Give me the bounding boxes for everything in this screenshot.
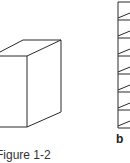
- ladder-drawing: [118, 2, 130, 128]
- figure-canvas: [0, 0, 130, 163]
- ladder-diagonal: [118, 85, 130, 90]
- figure-caption: Figure 1-2: [0, 148, 51, 162]
- panel-label-b: b: [116, 132, 123, 146]
- ladder-diagonal: [118, 31, 130, 36]
- cube-top-face: [0, 40, 61, 56]
- cube-front-face: [0, 56, 27, 127]
- ladder-diagonal: [118, 67, 130, 72]
- ladder-diagonal: [118, 121, 130, 126]
- ladder-diagonal: [118, 49, 130, 54]
- ladder-diagonal: [118, 13, 130, 18]
- ladder-diagonal: [118, 103, 130, 108]
- cube-drawing: [0, 40, 61, 127]
